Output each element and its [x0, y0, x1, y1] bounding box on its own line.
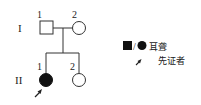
- member-number-I-2: 2: [72, 9, 77, 20]
- female-unaffected-II-2: [73, 74, 86, 87]
- generation-label-I: I: [18, 22, 22, 34]
- legend-slash: /: [133, 41, 136, 52]
- legend-affected-label: 耳聋: [149, 41, 167, 52]
- female-unaffected-I-2: [73, 22, 86, 35]
- member-number-II-2: 2: [70, 61, 75, 72]
- pedigree-chart: I II 1 2 1 2 / 耳聋 先证者: [0, 0, 201, 105]
- male-unaffected-I-1: [40, 21, 53, 34]
- member-number-I-1: 1: [37, 9, 42, 20]
- female-affected-II-1: [40, 74, 53, 87]
- member-number-II-1: 1: [37, 61, 42, 72]
- legend-proband-label: 先证者: [158, 55, 185, 66]
- legend-square-icon: [123, 41, 132, 50]
- legend-circle-icon: [138, 41, 147, 50]
- generation-label-II: II: [15, 74, 23, 86]
- proband-arrow-icon: [35, 89, 42, 97]
- legend-proband-arrow-icon: [136, 59, 142, 65]
